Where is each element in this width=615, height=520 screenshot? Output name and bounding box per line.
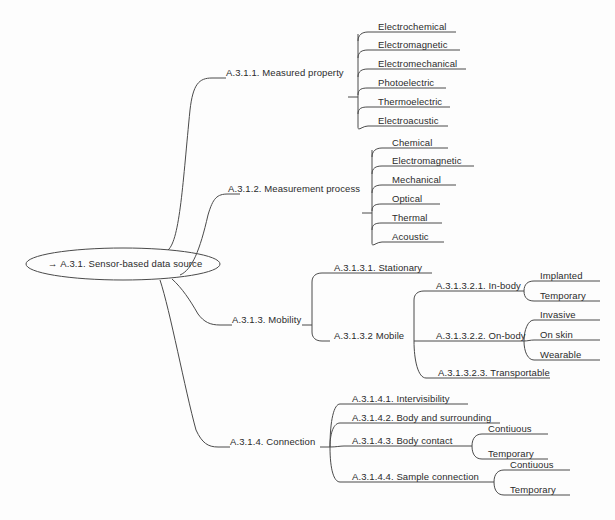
leaf-optical[interactable]: Optical	[392, 193, 422, 204]
stem-connection-3	[330, 447, 348, 482]
node-stationary[interactable]: A.3.1.3.1. Stationary	[334, 262, 422, 273]
node-transportable[interactable]: A.3.1.3.2.3. Transportable	[438, 367, 550, 378]
leaf-photoelectric[interactable]: Photoelectric	[378, 77, 434, 88]
hook-mp-3	[358, 88, 446, 95]
hook-mpr-2	[372, 185, 456, 193]
stem-connection-1	[330, 423, 348, 447]
node-sample-connection[interactable]: A.3.1.4.4. Sample connection	[352, 471, 479, 482]
root-node[interactable]: →A.3.1. Sensor-based data source	[40, 258, 210, 269]
hook-mpr-4	[372, 223, 442, 230]
hook-mpr-1	[372, 166, 474, 174]
leaf-electromagnetic-mpr[interactable]: Electromagnetic	[392, 155, 462, 166]
leaf-on-skin[interactable]: On skin	[540, 329, 573, 340]
node-in-body[interactable]: A.3.1.3.2.1. In-body	[436, 280, 521, 291]
hook-onbody-1	[524, 340, 600, 341]
leaf-invasive[interactable]: Invasive	[540, 309, 576, 320]
leaf-implanted[interactable]: Implanted	[540, 270, 583, 281]
leaf-temporary-body-contact[interactable]: Temporary	[488, 448, 534, 459]
mindmap-canvas: →A.3.1. Sensor-based data source A.3.1.1…	[0, 0, 615, 520]
leaf-temporary-sample-connection[interactable]: Temporary	[510, 484, 556, 495]
stem-connection-2	[330, 446, 348, 447]
leaf-electroacustic[interactable]: Electroacustic	[378, 115, 439, 126]
leaf-chemical[interactable]: Chemical	[392, 137, 432, 148]
leaf-contiuous-sample-connection[interactable]: Contiuous	[510, 459, 554, 470]
leaf-wearable[interactable]: Wearable	[540, 349, 581, 360]
stem-mobility	[312, 273, 330, 325]
stem-mobile	[414, 291, 432, 341]
node-connection[interactable]: A.3.1.4. Connection	[230, 436, 315, 447]
root-arrow-icon: →	[48, 258, 58, 269]
leaf-thermoelectric[interactable]: Thermoelectric	[378, 96, 442, 107]
hook-mpr-3	[372, 204, 440, 211]
root-node-label: A.3.1. Sensor-based data source	[60, 258, 202, 269]
node-body-contact[interactable]: A.3.1.4.3. Body contact	[352, 435, 453, 446]
hook-sampleconn-0	[494, 470, 570, 482]
branch-line-connection	[160, 280, 230, 447]
leaf-electromechanical[interactable]: Electromechanical	[378, 58, 457, 69]
leaf-acoustic[interactable]: Acoustic	[392, 231, 429, 242]
leaf-thermal[interactable]: Thermal	[392, 212, 428, 223]
leaf-electromagnetic-mp[interactable]: Electromagnetic	[378, 39, 448, 50]
leaf-electrochemical[interactable]: Electrochemical	[378, 21, 447, 32]
branch-line-measured-property	[168, 78, 226, 250]
hook-mp-5	[358, 126, 448, 129]
stem-mobility-2	[312, 325, 330, 341]
node-mobility[interactable]: A.3.1.3. Mobility	[232, 314, 301, 325]
hook-mp-4	[358, 107, 450, 114]
node-measured-property[interactable]: A.3.1.1. Measured property	[226, 67, 344, 78]
leaf-temporary-inbody[interactable]: Temporary	[540, 290, 586, 301]
hook-bodycontact-0	[472, 434, 548, 446]
hook-mpr-5	[372, 242, 444, 245]
node-body-and-surrounding[interactable]: A.3.1.4.2. Body and surrounding	[352, 412, 491, 423]
node-mobile[interactable]: A.3.1.3.2 Mobile	[334, 330, 404, 341]
leaf-mechanical[interactable]: Mechanical	[392, 174, 441, 185]
node-on-body[interactable]: A.3.1.3.2.2. On-body	[436, 330, 526, 341]
stem-connection-0	[330, 404, 348, 447]
hook-mp-2	[358, 69, 466, 77]
node-intervisibility[interactable]: A.3.1.4.1. Intervisibility	[352, 393, 450, 404]
hook-mp-1	[358, 50, 460, 58]
leaf-contiuous-body-contact[interactable]: Contiuous	[488, 423, 532, 434]
branch-line-mobility	[172, 279, 232, 325]
node-measurement-process[interactable]: A.3.1.2. Measurement process	[228, 183, 360, 194]
stem-mobile-3	[414, 341, 434, 378]
